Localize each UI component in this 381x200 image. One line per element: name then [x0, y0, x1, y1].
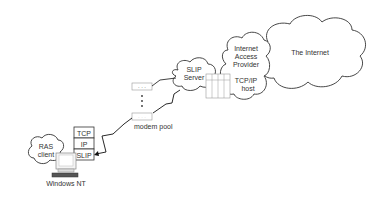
ras-client-line2: client	[38, 151, 54, 158]
provider-line4: TCP/IP	[235, 77, 258, 84]
protocol-stack: TCP IP SLIP	[74, 127, 94, 160]
internet-label: The Internet	[291, 49, 329, 56]
stack-tcp: TCP	[77, 130, 91, 137]
provider-line1: Internet	[234, 45, 258, 52]
stack-slip: SLIP	[76, 152, 92, 159]
ras-client-line1: RAS	[39, 143, 54, 150]
stack-ip: IP	[81, 141, 88, 148]
link-client-to-modem	[96, 118, 132, 154]
slip-server-line1: SLIP	[186, 66, 202, 73]
server-rack-icon	[206, 74, 230, 98]
provider-line3: Provider	[233, 61, 260, 68]
provider-line5: host	[241, 85, 254, 92]
link-top-modem-to-server	[152, 78, 176, 86]
modem-bottom-dots: · · ·	[138, 114, 146, 120]
provider-line2: Access	[235, 53, 258, 60]
modem-pool-label: modem pool	[134, 123, 173, 131]
link-modem-to-server	[153, 90, 180, 113]
modem-top-dots: · · ·	[138, 84, 146, 90]
network-diagram: The Internet Internet Access Provider TC…	[0, 0, 381, 200]
slip-server-line2: Server	[184, 74, 205, 81]
windows-nt-label: Windows NT	[46, 180, 86, 187]
computer-icon	[52, 153, 78, 177]
